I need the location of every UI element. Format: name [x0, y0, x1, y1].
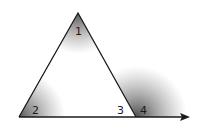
- angle-label-2: 2: [32, 104, 39, 117]
- triangle-diagram: 1 2 3 4: [0, 0, 200, 127]
- angle-label-4: 4: [140, 104, 147, 117]
- angle-label-3: 3: [117, 104, 124, 117]
- angle-label-1: 1: [75, 25, 82, 38]
